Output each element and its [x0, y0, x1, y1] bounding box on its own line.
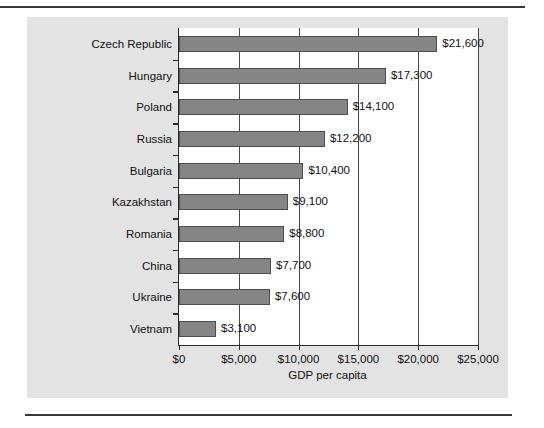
- x-axis-tick: [239, 345, 240, 350]
- bar-value-label: $8,800: [289, 227, 324, 239]
- category-label: China: [27, 260, 172, 272]
- bar-value-label: $7,600: [275, 290, 310, 302]
- bar: [179, 289, 270, 305]
- bar: [179, 258, 271, 274]
- x-axis-tick-label: $10,000: [278, 353, 320, 365]
- bar: [179, 321, 216, 337]
- bar: [179, 163, 303, 179]
- bar-value-label: $9,100: [293, 195, 328, 207]
- gridline: [478, 28, 479, 345]
- x-axis-tick-label: $25,000: [457, 353, 499, 365]
- y-axis-tick: [173, 313, 179, 315]
- x-axis-tick: [299, 345, 300, 350]
- plot-area: $0$5,000$10,000$15,000$20,000$25,000$21,…: [178, 28, 478, 346]
- bottom-divider-rule: [25, 414, 512, 416]
- bar-value-label: $7,700: [276, 259, 311, 271]
- category-label: Vietnam: [27, 323, 172, 335]
- y-axis-tick: [173, 155, 179, 157]
- y-axis-tick: [173, 60, 179, 62]
- x-axis-tick: [179, 345, 180, 350]
- y-axis-tick: [173, 91, 179, 93]
- y-axis-tick: [173, 250, 179, 252]
- category-label: Russia: [27, 133, 172, 145]
- y-axis-tick: [173, 218, 179, 220]
- category-label: Kazakhstan: [27, 196, 172, 208]
- x-axis-tick: [358, 345, 359, 350]
- category-label: Ukraine: [27, 291, 172, 303]
- y-axis-tick: [173, 282, 179, 284]
- bar: [179, 226, 284, 242]
- x-axis-tick-label: $20,000: [397, 353, 439, 365]
- chart-panel: $0$5,000$10,000$15,000$20,000$25,000$21,…: [27, 17, 508, 398]
- bar-value-label: $12,200: [330, 132, 372, 144]
- bar: [179, 194, 288, 210]
- x-axis-tick: [478, 345, 479, 350]
- bar-value-label: $17,300: [391, 69, 433, 81]
- y-axis-tick: [173, 123, 179, 125]
- bar-value-label: $21,600: [442, 37, 484, 49]
- x-axis-tick-label: $5,000: [221, 353, 256, 365]
- x-axis-title: GDP per capita: [178, 369, 477, 381]
- category-label: Czech Republic: [27, 38, 172, 50]
- bar-value-label: $3,100: [221, 322, 256, 334]
- bar-value-label: $10,400: [308, 164, 350, 176]
- x-axis-tick: [418, 345, 419, 350]
- chart-figure: $0$5,000$10,000$15,000$20,000$25,000$21,…: [0, 0, 544, 428]
- y-axis-tick: [173, 187, 179, 189]
- bar-value-label: $14,100: [353, 100, 395, 112]
- bar: [179, 36, 437, 52]
- category-label: Hungary: [27, 70, 172, 82]
- x-axis-tick-label: $15,000: [338, 353, 380, 365]
- category-label: Bulgaria: [27, 165, 172, 177]
- top-divider-rule: [0, 6, 525, 8]
- x-axis-tick-label: $0: [173, 353, 186, 365]
- category-label: Romania: [27, 228, 172, 240]
- bar: [179, 68, 386, 84]
- bar: [179, 131, 325, 147]
- bar: [179, 99, 348, 115]
- category-label: Poland: [27, 101, 172, 113]
